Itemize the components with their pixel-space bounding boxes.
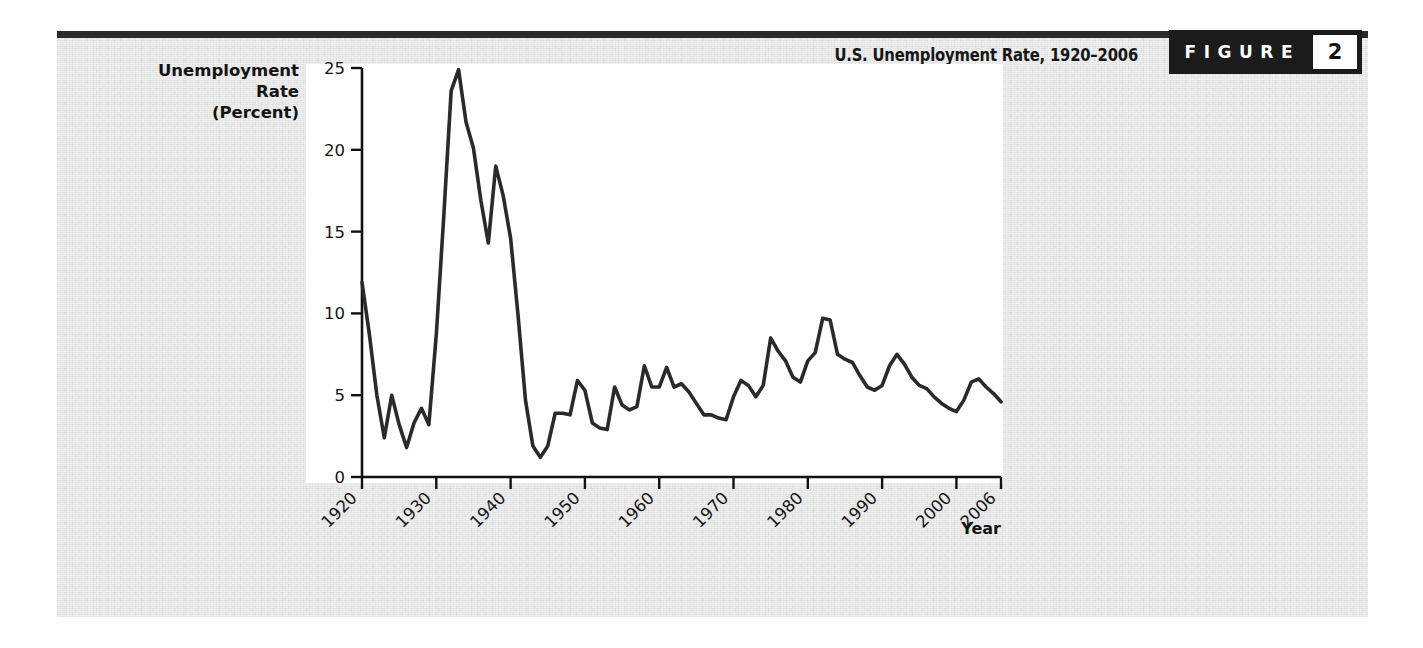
y-axis-title-line-3: (Percent) <box>212 103 299 122</box>
y-axis-title-line-2: Rate <box>256 82 299 101</box>
x-tick-label: 1920 <box>318 488 361 531</box>
x-tick-label: 1940 <box>466 488 509 531</box>
x-tick-label: 1970 <box>689 488 732 531</box>
y-axis-title: Unemployment Rate (Percent) <box>158 61 299 122</box>
x-axis-title: Year <box>960 519 1001 538</box>
x-tick-label: 1960 <box>615 488 658 531</box>
x-tick-label: 1930 <box>392 488 435 531</box>
y-tick-label: 10 <box>324 304 345 323</box>
y-tick-label: 5 <box>335 386 346 405</box>
x-tick-label: 1990 <box>838 488 881 531</box>
y-axis-ticks: 0510152025 <box>324 59 362 487</box>
x-tick-label: 1950 <box>541 488 584 531</box>
y-tick-label: 0 <box>335 468 346 487</box>
y-tick-label: 20 <box>324 141 345 160</box>
axis-lines <box>362 68 1001 477</box>
unemployment-rate-line <box>362 70 1001 458</box>
unemployment-line-chart: Unemployment Rate (Percent) 0510152025 1… <box>0 0 1311 586</box>
y-tick-label: 25 <box>324 59 345 78</box>
x-axis-ticks: 1920193019401950196019701980199020002006 <box>318 477 1001 532</box>
x-tick-label: 1980 <box>764 488 807 531</box>
y-tick-label: 15 <box>324 223 345 242</box>
figure-badge-number: 2 <box>1313 35 1357 69</box>
y-axis-title-line-1: Unemployment <box>158 61 299 80</box>
x-tick-label: 2000 <box>912 488 955 531</box>
chart-container: Unemployment Rate (Percent) 0510152025 1… <box>0 0 1311 586</box>
